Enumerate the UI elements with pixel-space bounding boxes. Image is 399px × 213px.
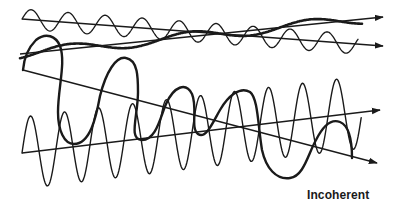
- figure-caption: Incoherent: [307, 188, 369, 202]
- incoherent-waves-diagram: [0, 0, 399, 213]
- wave-curves: [20, 10, 362, 186]
- propagation-axes: [20, 17, 383, 163]
